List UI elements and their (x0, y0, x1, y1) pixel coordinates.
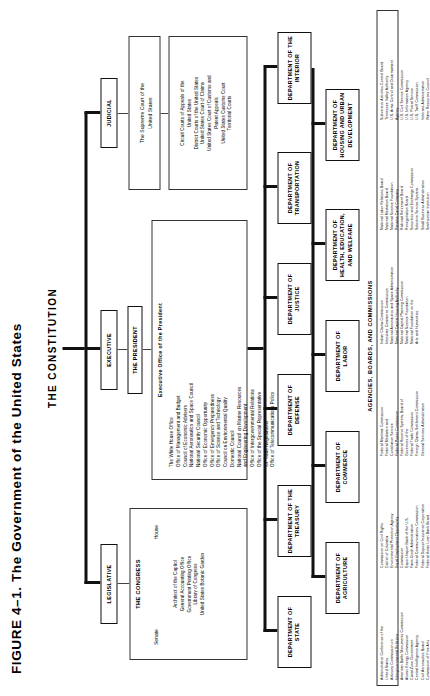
dept-box-interior: DEPARTMENT OF THE INTERIOR (277, 32, 311, 104)
dept-box-transportation: DEPARTMENT OF TRANSPORTATION (277, 152, 311, 224)
dept-drop-4 (311, 464, 325, 467)
judicial-stem (84, 111, 100, 114)
executive-branch-box: EXECUTIVE (100, 310, 117, 390)
judicial-link (117, 113, 128, 114)
executive-stem (84, 347, 100, 350)
senate-label: Senate (152, 629, 158, 645)
dept-box-agriculture: DEPARTMENT OF AGRICULTURE (325, 542, 359, 614)
root-stem (62, 347, 84, 350)
eop-item-list: The White House Office Office of Managem… (168, 383, 276, 467)
dept-drop-9 (263, 185, 277, 188)
supreme-court-label: The Supreme Court of the United States (138, 37, 153, 189)
legislative-link (117, 583, 129, 584)
house-label: House (152, 525, 158, 539)
executive-link (117, 349, 127, 350)
agencies-column-2: Commission on Civil Rights District of C… (379, 460, 430, 568)
dept-drop-7 (263, 296, 277, 299)
dept-box-commerce: DEPARTMENT OF COMMERCE (325, 431, 359, 503)
legislative-agency-list: Architect of the Capitol General Account… (172, 509, 206, 659)
departments-stem (247, 347, 263, 350)
legislative-stem (84, 581, 100, 584)
lower-courts-box: Circuit Courts of Appeals of the United … (168, 36, 247, 190)
dept-drop-2 (311, 575, 325, 578)
departments-bar-bottom (311, 68, 314, 578)
judicial-branch-box: JUDICIAL (100, 78, 117, 148)
congress-box: THE CONGRESS Senate House Architect of t… (129, 508, 247, 660)
agencies-column-4: Indian Claims Commission Interstate Comm… (379, 232, 420, 344)
courts-link (160, 113, 168, 114)
dept-box-state: DEPARTMENT OF STATE (277, 596, 311, 668)
agencies-column-6: Subversive Activities Control Board Tenn… (379, 12, 430, 120)
dept-box-justice: DEPARTMENT OF JUSTICE (277, 263, 311, 335)
figure-title: FIGURE 4–1. The Government of the United… (8, 323, 23, 674)
constitution-root: THE CONSTITUTION (46, 268, 57, 428)
dept-drop-3 (263, 518, 277, 521)
dept-box-treasury: DEPARTMENT OF THE TREASURY (277, 485, 311, 557)
dept-box-hud: DEPARTMENT OF HOUSING AND URBAN DEVELOPM… (325, 89, 359, 161)
executive-office-box: Executive Office of the President The Wh… (151, 220, 247, 480)
agencies-column-5: National Labor Relations Board National … (379, 122, 430, 230)
supreme-court-box: The Supreme Court of the United States (128, 36, 160, 190)
dept-drop-1 (263, 629, 277, 632)
dept-drop-8 (311, 242, 325, 245)
president-link (142, 349, 151, 350)
agencies-column-1: Administrative Conference of the United … (379, 572, 430, 680)
agencies-column-3: Federal Maritime Commission Federal Medi… (379, 348, 425, 456)
dept-drop-6 (311, 353, 325, 356)
dept-drop-5 (263, 407, 277, 410)
departments-bar-top (263, 68, 266, 632)
dept-box-hew: DEPARTMENT OF HEALTH, EDUCATION, AND WEL… (325, 209, 359, 281)
dept-box-labor: DEPARTMENT OF LABOR (325, 320, 359, 392)
legislative-branch-box: LEGISLATIVE (100, 544, 117, 624)
agencies-heading: AGENCIES, BOARDS, AND COMMISSIONS (366, 226, 372, 466)
dept-drop-11 (263, 65, 277, 68)
president-box: THE PRESIDENT (127, 306, 142, 394)
dept-drop-10 (311, 122, 325, 125)
lower-courts-list: Circuit Courts of Appeals of the United … (179, 37, 233, 189)
dept-box-defense: DEPARTMENT OF DEFENSE (277, 374, 311, 446)
